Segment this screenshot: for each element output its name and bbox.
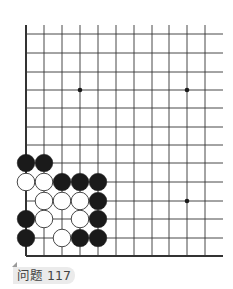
problem-label: 问题 117: [13, 267, 75, 284]
black-stone: [89, 210, 107, 228]
white-stone: [53, 192, 71, 210]
black-stone: [17, 229, 35, 247]
black-stone: [89, 229, 107, 247]
star-point: [185, 199, 190, 204]
white-stone: [35, 173, 53, 191]
star-point: [185, 88, 190, 93]
black-stone: [17, 210, 35, 228]
black-stone: [71, 173, 89, 191]
white-stone: [71, 192, 89, 210]
black-stone: [71, 229, 89, 247]
white-stone: [71, 210, 89, 228]
grid-lines: [26, 25, 223, 256]
black-stone: [35, 154, 53, 172]
go-board: [0, 0, 233, 262]
white-stone: [17, 173, 35, 191]
star-point: [78, 88, 83, 93]
black-stone: [89, 192, 107, 210]
black-stone: [89, 173, 107, 191]
black-stone: [53, 173, 71, 191]
white-stone: [35, 192, 53, 210]
white-stone: [53, 229, 71, 247]
white-stone: [35, 210, 53, 228]
black-stone: [17, 154, 35, 172]
